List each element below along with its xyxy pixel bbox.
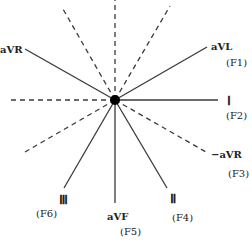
lead-neg-aVR-axis: [115, 100, 206, 152]
label-F4: (F4): [172, 212, 193, 223]
label-III: Ⅲ: [59, 193, 68, 206]
dashed-up-left-axis: [63, 9, 115, 100]
label-F5: (F5): [120, 226, 141, 237]
lead-II-axis: [115, 100, 167, 188]
label-F3: (F3): [228, 168, 249, 179]
label-II: Ⅱ: [170, 192, 176, 205]
label-F6: (F6): [36, 208, 57, 219]
center-dot: [110, 95, 120, 105]
label-I: Ⅰ: [227, 94, 231, 107]
lead-aVR-axis: [25, 49, 115, 100]
label-neg-aVR: −aVR: [211, 150, 242, 160]
hexaxial-diagram: [0, 0, 252, 240]
lead-III-axis: [64, 100, 115, 188]
lead-aVL-axis: [115, 47, 207, 100]
label-aVF: aVF: [107, 212, 128, 222]
label-F1: (F1): [226, 57, 247, 68]
label-aVL: aVL: [211, 42, 232, 52]
label-F2: (F2): [226, 110, 247, 121]
dashed-down-left-axis: [25, 100, 115, 152]
label-aVR: aVR: [0, 45, 23, 55]
dashed-up-right-axis: [115, 6, 170, 100]
